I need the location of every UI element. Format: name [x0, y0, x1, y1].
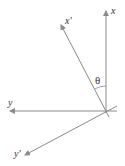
angle-arc	[95, 86, 107, 89]
y-prime-axis	[25, 106, 117, 155]
angle-theta-label: θ	[95, 74, 100, 86]
x-prime-axis	[61, 25, 109, 117]
y-prime-axis-label: y'	[13, 148, 21, 159]
rotation-diagram: x x' y y' θ	[0, 0, 125, 166]
x-axis-label: x	[110, 5, 116, 16]
y-axis-label: y	[7, 97, 13, 108]
x-prime-axis-label: x'	[64, 15, 72, 26]
